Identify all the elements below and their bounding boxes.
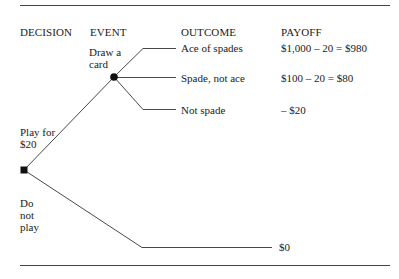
branch-label-play-line1: Play for	[20, 126, 55, 138]
branch-play	[24, 77, 114, 170]
payoff-ace-of-spades: $1,000 – 20 = $980	[281, 42, 367, 54]
branch-do-not-play	[24, 170, 272, 248]
payoff-do-not-play: $0	[279, 241, 290, 253]
chance-node-circle-icon	[110, 73, 118, 81]
chance-node-label-line2: card	[89, 58, 108, 70]
column-header-decision: DECISION	[20, 26, 72, 38]
branch-label-play-line2: $20	[20, 138, 37, 150]
outcome-spade-not-ace: Spade, not ace	[181, 72, 245, 84]
branch-label-do-not-play-line2: not	[20, 209, 34, 221]
outcome-ace-of-spades: Ace of spades	[181, 42, 243, 54]
column-header-payoff: PAYOFF	[281, 26, 322, 38]
column-header-event: EVENT	[90, 26, 127, 38]
branch-label-do-not-play-line1: Do	[20, 197, 33, 209]
chance-node-label-line1: Draw a	[89, 46, 121, 58]
branch-ace-of-spades	[114, 49, 176, 78]
column-header-outcome: OUTCOME	[181, 26, 236, 38]
payoff-spade-not-ace: $100 – 20 = $80	[281, 72, 353, 84]
branch-not-spade	[114, 77, 176, 110]
branch-label-do-not-play-line3: play	[20, 221, 39, 233]
outcome-not-spade: Not spade	[181, 104, 225, 116]
decision-node-square-icon	[21, 167, 28, 174]
payoff-not-spade: – $20	[281, 104, 306, 116]
